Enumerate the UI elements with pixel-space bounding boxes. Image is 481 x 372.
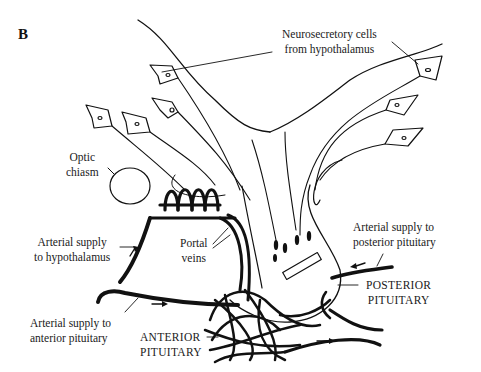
primary-plexus [150, 190, 235, 218]
posterior-vessel-lower [330, 310, 382, 330]
label-line: from hypothalamus [282, 42, 377, 57]
label-line: PITUITARY [140, 345, 202, 360]
panel-label: B [18, 26, 28, 43]
label-line: posterior pituitary [353, 235, 436, 250]
label-line: Arterial supply to [353, 220, 436, 235]
label-line: to hypothalamus [34, 250, 110, 265]
secondary-plexus [205, 290, 330, 362]
label-line: chiasm [66, 165, 99, 180]
neurosecretory-cell-group [86, 56, 442, 146]
axon-terminals [273, 231, 311, 262]
axons [112, 76, 420, 240]
label-arterial-supply-anterior: Arterial supply to anterior pituitary [30, 316, 111, 346]
label-line: ANTERIOR [140, 330, 202, 345]
optic-chiasm [110, 168, 150, 204]
label-line: Portal [180, 236, 207, 251]
hypothalamus-outline-right [270, 44, 442, 132]
label-line: Arterial supply to [30, 316, 111, 331]
label-line: Arterial supply [34, 235, 110, 250]
label-arterial-supply-posterior: Arterial supply to posterior pituitary [353, 220, 436, 250]
label-neurosecretory-cells: Neurosecretory cells from hypothalamus [282, 27, 377, 57]
posterior-lobe-outline [230, 185, 341, 322]
label-anterior-pituitary: ANTERIOR PITUITARY [140, 330, 202, 360]
label-arterial-supply-hypothalamus: Arterial supply to hypothalamus [34, 235, 110, 265]
label-line: POSTERIOR [366, 278, 431, 293]
label-line: anterior pituitary [30, 331, 111, 346]
stalk-right-wall [314, 160, 342, 205]
portal-veins [220, 215, 249, 300]
label-line: Optic [66, 150, 99, 165]
label-line: Neurosecretory cells [282, 27, 377, 42]
posterior-capillary [283, 253, 322, 280]
label-line: veins [180, 251, 207, 266]
label-line: PITUITARY [366, 293, 431, 308]
label-portal-veins: Portal veins [180, 236, 207, 266]
label-optic-chiasm: Optic chiasm [66, 150, 99, 180]
label-posterior-pituitary: POSTERIOR PITUITARY [366, 278, 431, 308]
